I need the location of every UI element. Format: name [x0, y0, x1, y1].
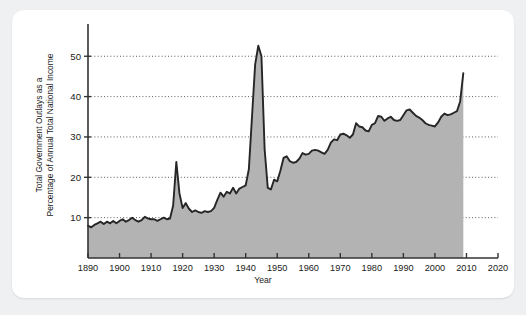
y-axis-label-line1: Total Government Outlays as a [34, 78, 44, 193]
svg-text:20: 20 [70, 172, 81, 183]
svg-text:1990: 1990 [393, 263, 413, 273]
svg-text:1910: 1910 [141, 263, 161, 273]
y-axis-label-line2: Percentage of Annual Total National Inco… [45, 54, 56, 217]
x-axis-label: Year [12, 275, 514, 285]
svg-text:2010: 2010 [456, 263, 476, 273]
svg-text:1930: 1930 [204, 263, 224, 273]
chart-figure: Total Government Outlays as a Percentage… [12, 10, 514, 298]
svg-text:10: 10 [70, 212, 81, 223]
svg-text:1960: 1960 [299, 263, 319, 273]
svg-text:1980: 1980 [362, 263, 382, 273]
svg-text:1920: 1920 [172, 263, 192, 273]
svg-text:1970: 1970 [330, 263, 350, 273]
svg-text:50: 50 [70, 51, 81, 62]
y-axis: 1020304050 [70, 24, 91, 258]
chart-plot-area: 1020304050 18901900191019201930194019501… [12, 10, 514, 298]
svg-text:2020: 2020 [488, 263, 508, 273]
area-series [88, 46, 463, 258]
chart-card: Total Government Outlays as a Percentage… [12, 10, 514, 298]
svg-text:1950: 1950 [267, 263, 287, 273]
svg-text:40: 40 [70, 91, 81, 102]
svg-text:1890: 1890 [78, 263, 98, 273]
y-axis-label: Total Government Outlays as a Percentage… [26, 16, 64, 254]
svg-text:1940: 1940 [235, 263, 255, 273]
svg-text:2000: 2000 [425, 263, 445, 273]
svg-text:30: 30 [70, 131, 81, 142]
svg-text:1900: 1900 [109, 263, 129, 273]
